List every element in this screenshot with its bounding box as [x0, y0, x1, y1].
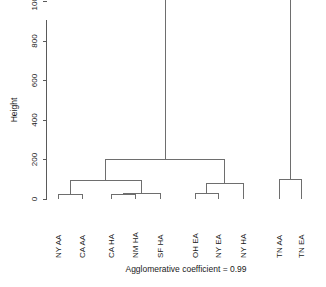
y-axis-ticks: 02004006008001000 [30, 0, 47, 201]
leaf-label-tn-aa: TN AA [275, 234, 284, 258]
merge-m9 [165, 0, 290, 179]
leaf-label-tn-ea: TN EA [297, 234, 306, 258]
merge-m6 [207, 183, 244, 199]
leaf-label-oh-ea: OH EA [191, 232, 200, 258]
merge-m4 [70, 180, 142, 194]
y-tick-label-600: 600 [30, 73, 39, 87]
y-tick-label-200: 200 [30, 152, 39, 166]
leaf-label-ny-ea: NY EA [214, 233, 223, 258]
merge-m7 [106, 160, 225, 184]
merge-m2 [111, 194, 135, 199]
merge-m8 [279, 179, 301, 199]
leaf-label-ca-aa: CA AA [78, 234, 87, 258]
leaf-labels: NY AACA AACA HANM HASF HAOH EANY EANY HA… [54, 232, 306, 258]
y-tick-label-1000: 1000 [30, 0, 39, 10]
merge-m1 [58, 194, 82, 199]
leaf-label-sf-ha: SF HA [156, 234, 165, 258]
leaf-label-ca-ha: CA HA [107, 233, 116, 258]
y-tick-label-0: 0 [30, 196, 39, 201]
y-tick-label-800: 800 [30, 34, 39, 48]
y-tick-label-400: 400 [30, 113, 39, 127]
dendrogram-canvas: 02004006008001000 NY AACA AACA HANM HASF… [0, 0, 326, 287]
y-axis-title: Height [9, 97, 19, 122]
leaf-label-ny-ha: NY HA [239, 233, 248, 258]
leaf-label-ny-aa: NY AA [54, 234, 63, 258]
dendrogram-links [58, 0, 301, 199]
chart-caption: Agglomerative coefficient = 0.99 [125, 264, 246, 274]
merge-m5 [195, 193, 218, 199]
dendrogram-plot: 02004006008001000 NY AACA AACA HANM HASF… [0, 0, 326, 287]
leaf-label-nm-ha: NM HA [131, 232, 140, 258]
